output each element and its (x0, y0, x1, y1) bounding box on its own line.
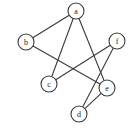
node-layer: abcdef (18, 3, 125, 122)
graph-node-label-f: f (116, 37, 119, 46)
graph-figure: abcdef (0, 0, 135, 133)
graph-edge-d-e (85, 93, 101, 108)
graph-node-a: a (68, 3, 84, 19)
graph-node-label-d: d (77, 110, 81, 119)
graph-node-c: c (41, 76, 57, 92)
graph-node-e: e (99, 80, 115, 96)
graph-canvas: abcdef (0, 0, 135, 133)
graph-node-f: f (109, 33, 125, 49)
graph-edge-d-f (83, 48, 114, 107)
graph-edge-a-e (79, 18, 104, 80)
graph-node-label-b: b (24, 38, 28, 47)
graph-node-label-e: e (105, 84, 109, 93)
graph-node-label-a: a (74, 7, 78, 16)
graph-edge-a-c (52, 19, 73, 77)
graph-node-label-c: c (47, 80, 51, 89)
graph-node-b: b (18, 34, 34, 50)
graph-edge-a-b (33, 15, 69, 38)
edge-layer (33, 15, 114, 108)
graph-node-d: d (71, 106, 87, 122)
